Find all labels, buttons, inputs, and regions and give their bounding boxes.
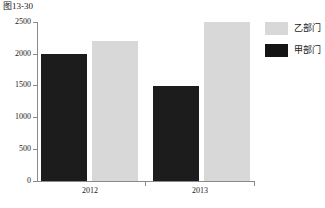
y-tick-label: 2000 — [15, 50, 31, 58]
y-axis-tick-2000: 2000 — [37, 54, 38, 55]
light-gray-swatch-icon — [265, 22, 288, 35]
y-axis-tick-500: 500 — [37, 149, 38, 150]
x-axis-line — [37, 181, 255, 182]
legend-item-jiabumen[interactable]: 甲部门 — [265, 44, 323, 57]
legend-label-yibumen: 乙部门 — [294, 23, 321, 34]
figure-caption: 图13-30 — [3, 1, 33, 12]
y-axis-tick-1500: 1500 — [37, 85, 38, 86]
chart-plot-area: 2500 2000 1500 1000 500 0 2012 — [37, 22, 255, 182]
y-axis-tick-1000: 1000 — [37, 117, 38, 118]
x-axis-tick-separator — [145, 182, 146, 186]
y-tick-mark — [33, 54, 37, 55]
y-tick-label: 1000 — [15, 113, 31, 121]
bar-yibumen-2013[interactable] — [204, 22, 250, 181]
y-tick-label: 500 — [19, 145, 31, 153]
y-tick-mark — [33, 85, 37, 86]
x-axis-label-2012: 2012 — [82, 186, 98, 196]
y-axis-tick-2500: 2500 — [37, 22, 38, 23]
y-tick-mark — [33, 181, 37, 182]
y-axis-line — [37, 22, 38, 182]
bar-jiabumen-2012[interactable] — [41, 54, 87, 181]
figure-container: 图13-30 2500 2000 1500 1000 500 0 — [0, 0, 325, 208]
black-swatch-icon — [265, 44, 288, 57]
y-tick-label: 0 — [27, 177, 31, 185]
x-axis-label-2013: 2013 — [192, 186, 208, 196]
y-tick-mark — [33, 149, 37, 150]
bar-yibumen-2012[interactable] — [92, 41, 138, 181]
y-tick-mark — [33, 22, 37, 23]
y-tick-label: 1500 — [15, 81, 31, 89]
bar-jiabumen-2013[interactable] — [153, 86, 199, 181]
x-axis-tick-end — [254, 182, 255, 186]
legend-label-jiabumen: 甲部门 — [294, 45, 321, 56]
legend-item-yibumen[interactable]: 乙部门 — [265, 22, 323, 35]
y-tick-mark — [33, 117, 37, 118]
y-axis-tick-0: 0 — [37, 181, 38, 182]
y-tick-label: 2500 — [15, 18, 31, 26]
chart-legend: 乙部门 甲部门 — [265, 22, 323, 66]
